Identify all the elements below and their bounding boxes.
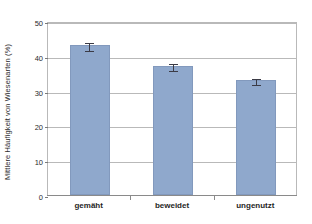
x-axis-tick-mark: [214, 196, 215, 200]
error-bar-cap-bottom: [169, 71, 178, 72]
gridline: [48, 23, 296, 24]
error-bar-cap-top: [169, 64, 178, 65]
y-axis-tick-label: 40: [35, 53, 43, 62]
y-axis-tick-mark: [45, 162, 48, 163]
y-axis-tick-label: 0: [39, 193, 43, 202]
y-axis-title: Mittlere Häufigkeit von Wiesenarten (%): [0, 0, 14, 224]
y-axis-tick-label: 30: [35, 88, 43, 97]
y-axis-tick-label: 10: [35, 158, 43, 167]
y-axis-tick-mark: [45, 127, 48, 128]
x-axis-tick-label: beweidet: [155, 201, 189, 210]
bar-chart-figure: Mittlere Häufigkeit von Wiesenarten (%) …: [0, 0, 312, 224]
x-axis-tick-label: gemäht: [74, 201, 102, 210]
y-axis-tick-label: 20: [35, 123, 43, 132]
y-axis-tick-mark: [45, 23, 48, 24]
error-bar: [252, 79, 261, 86]
y-axis-tick-mark: [45, 93, 48, 94]
plot-area: 01020304050: [47, 22, 297, 196]
error-bar-cap-bottom: [85, 51, 94, 52]
x-axis-line: [47, 195, 297, 196]
error-bar: [169, 64, 178, 72]
y-axis-tick-mark: [45, 58, 48, 59]
bar: [236, 80, 276, 195]
y-axis-tick-mark: [45, 197, 48, 198]
error-bar-cap-top: [85, 43, 94, 44]
bar: [153, 66, 193, 195]
bar: [70, 45, 110, 195]
error-bar-cap-top: [252, 79, 261, 80]
y-axis-tick-label: 50: [35, 19, 43, 28]
x-axis-tick-label: ungenutzt: [236, 201, 274, 210]
error-bar-cap-bottom: [252, 85, 261, 86]
error-bar: [85, 43, 94, 52]
x-axis-tick-mark: [130, 196, 131, 200]
